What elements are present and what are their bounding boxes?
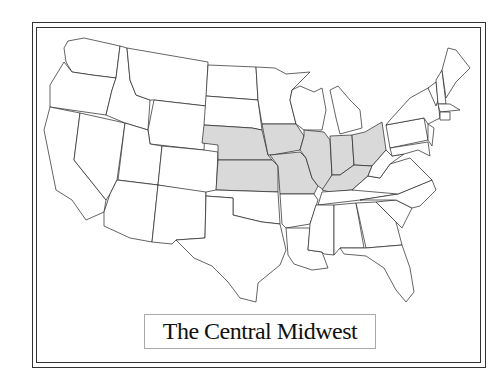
state-arizona: Arizona: [104, 180, 158, 242]
state-south-dakota: South Dakota: [204, 96, 262, 130]
state-iowa: Iowa: [262, 124, 304, 155]
map-title-box: The Central Midwest: [144, 314, 376, 349]
state-michigan: Michigan: [330, 86, 362, 134]
state-new-jersey: New Jersey: [428, 124, 434, 146]
state-wyoming: Wyoming: [148, 100, 206, 150]
state-massachusetts: Massachusetts: [438, 104, 460, 112]
state-new-mexico: New Mexico: [152, 185, 206, 244]
state-kansas: Kansas: [216, 160, 278, 192]
state-north-dakota: North Dakota: [206, 65, 258, 100]
state-maine: Maine: [442, 48, 470, 98]
state-florida: Florida: [340, 245, 414, 302]
map-title: The Central Midwest: [163, 318, 357, 345]
state-connecticut: Connecticut: [440, 112, 450, 120]
